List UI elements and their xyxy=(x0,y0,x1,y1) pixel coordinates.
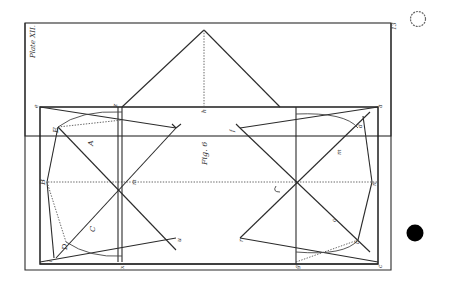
label-b: b xyxy=(353,240,360,244)
label-n: n xyxy=(370,182,377,186)
brace-mark xyxy=(275,186,280,192)
left-top-arc xyxy=(58,112,122,127)
engraved-plate: Plate XII. Fig. 6 13 A B C D E m m z h u… xyxy=(0,0,451,283)
corner-number: 13 xyxy=(390,22,397,30)
label-C: C xyxy=(88,226,97,232)
right-bottom-chord xyxy=(296,240,358,262)
label-l: l xyxy=(46,260,53,262)
label-o: o xyxy=(330,218,337,222)
right-top-arc xyxy=(296,114,358,128)
right-polygon-upper xyxy=(363,116,372,182)
label-z: z xyxy=(111,103,118,108)
left-diagonal-b xyxy=(56,128,176,258)
figure-rectangle xyxy=(40,107,378,264)
right-diagonal-b xyxy=(240,112,370,238)
open-circle-mark xyxy=(411,12,426,27)
filled-circle-mark xyxy=(407,225,424,242)
label-A: A xyxy=(86,140,95,147)
label-x: x xyxy=(118,265,125,269)
label-u: u xyxy=(175,238,182,242)
label-e: e xyxy=(32,104,39,108)
label-B: B xyxy=(38,179,47,186)
label-m-right: m xyxy=(335,149,342,155)
triangle-left-edge xyxy=(122,30,204,107)
tick-f-right xyxy=(236,124,240,128)
label-d: d xyxy=(356,124,363,128)
label-m-left: m xyxy=(130,179,137,185)
left-diagonal-a xyxy=(58,127,176,250)
right-polygon-lower xyxy=(358,182,372,240)
label-D: D xyxy=(60,243,69,251)
label-E: E xyxy=(51,127,60,134)
right-diagonal-a xyxy=(240,128,370,252)
upper-plate-border xyxy=(25,23,391,136)
label-g: g xyxy=(293,265,301,269)
plate-title: Plate XII. xyxy=(29,25,37,59)
label-h: h xyxy=(200,109,207,113)
right-bottom-arc xyxy=(296,240,358,253)
figure-caption: Fig. 6 xyxy=(200,142,209,166)
triangle-right-edge xyxy=(204,30,280,107)
left-polygon-upper xyxy=(47,127,58,182)
label-f: f xyxy=(228,128,236,133)
label-a: a xyxy=(376,104,383,108)
